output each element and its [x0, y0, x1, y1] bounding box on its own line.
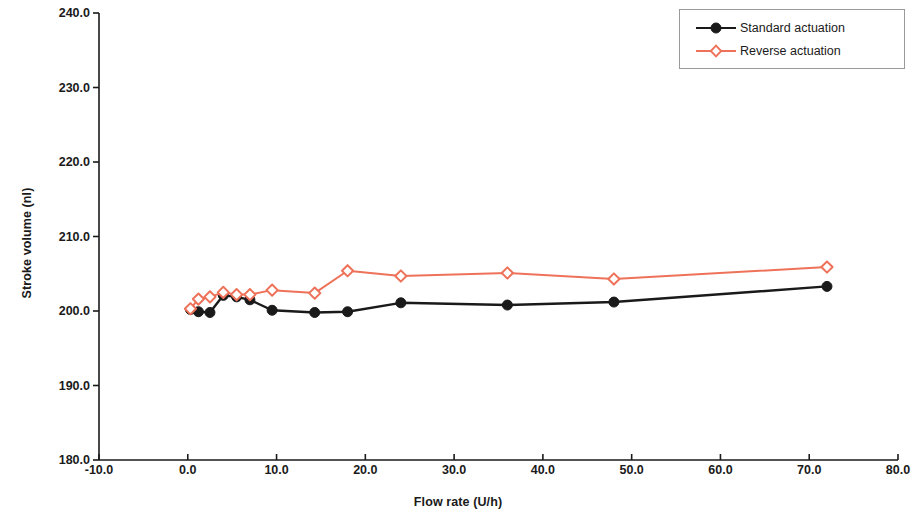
legend-label-reverse: Reverse actuation: [738, 44, 841, 58]
y-tick-label: 210.0: [38, 231, 90, 244]
y-tick-label: 190.0: [38, 380, 90, 393]
y-tick-label: 230.0: [38, 82, 90, 95]
data-point-marker: [502, 267, 513, 278]
x-tick-label: 0.0: [153, 464, 223, 477]
data-point-marker: [343, 307, 353, 317]
x-tick-label: 40.0: [508, 464, 578, 477]
legend-label-standard: Standard actuation: [738, 21, 845, 35]
y-tick-label: 240.0: [38, 7, 90, 20]
x-axis-title: Flow rate (U/h): [0, 495, 916, 509]
data-point-marker: [822, 281, 832, 291]
legend-marker-diamond-icon: [694, 43, 738, 59]
y-axis-title: Stroke volume (nl): [20, 128, 34, 358]
data-point-marker: [608, 273, 619, 284]
x-tick-label: 10.0: [242, 464, 312, 477]
data-point-marker: [821, 261, 832, 272]
x-tick-label: 50.0: [597, 464, 667, 477]
legend-marker-circle-icon: [694, 20, 738, 36]
data-point-marker: [396, 298, 406, 308]
data-point-marker: [267, 305, 277, 315]
data-point-marker: [204, 291, 215, 302]
x-tick-label: 60.0: [685, 464, 755, 477]
legend-item-standard[interactable]: Standard actuation: [680, 16, 904, 39]
x-axis-ticks: [99, 454, 898, 460]
chart-legend: Standard actuation Reverse actuation: [679, 9, 905, 69]
y-axis-ticks: [93, 13, 99, 460]
data-point-marker: [267, 285, 278, 296]
y-tick-label: 220.0: [38, 156, 90, 169]
plot-area: [0, 0, 916, 524]
data-point-marker: [502, 300, 512, 310]
data-point-marker: [205, 307, 215, 317]
data-point-marker: [309, 288, 320, 299]
series-standard-actuation: [185, 281, 832, 317]
data-point-marker: [609, 297, 619, 307]
legend-item-reverse[interactable]: Reverse actuation: [680, 39, 904, 62]
x-tick-label: 70.0: [774, 464, 844, 477]
y-tick-label: 200.0: [38, 305, 90, 318]
data-point-marker: [310, 307, 320, 317]
data-point-marker: [395, 270, 406, 281]
x-tick-label: 30.0: [419, 464, 489, 477]
x-tick-label: 80.0: [863, 464, 916, 477]
chart-container: 240.0230.0220.0210.0200.0190.0180.0 -10.…: [0, 0, 916, 524]
x-tick-label: -10.0: [64, 464, 134, 477]
x-tick-label: 20.0: [330, 464, 400, 477]
data-series-layer: [185, 261, 833, 317]
data-point-marker: [342, 265, 353, 276]
